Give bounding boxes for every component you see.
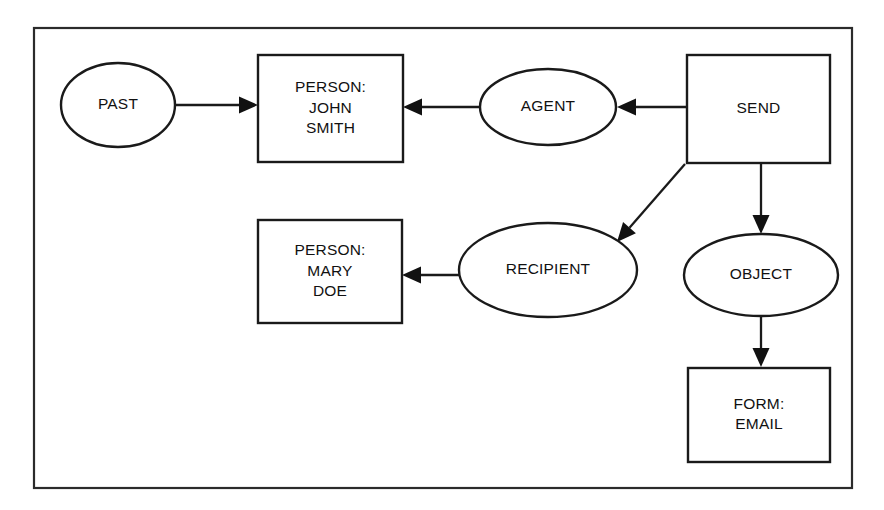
node-recipient[interactable]: RECIPIENT <box>459 223 637 317</box>
node-person-mary-doe[interactable]: PERSON:MARYDOE <box>258 220 402 323</box>
node-form-email[interactable]: FORM:EMAIL <box>688 368 830 462</box>
node-label: PERSON: <box>294 241 365 258</box>
node-label: PAST <box>98 95 138 112</box>
semantic-network-diagram: PASTPERSON:JOHNSMITHAGENTSENDPERSON:MARY… <box>0 0 884 510</box>
node-label: JOHN <box>309 99 352 116</box>
node-label: PERSON: <box>295 78 366 95</box>
node-label: FORM: <box>734 395 785 412</box>
diagram-root: PASTPERSON:JOHNSMITHAGENTSENDPERSON:MARY… <box>0 0 884 510</box>
node-object[interactable]: OBJECT <box>684 234 838 316</box>
node-label: SMITH <box>306 119 355 136</box>
node-label: SEND <box>737 99 781 116</box>
node-agent[interactable]: AGENT <box>480 69 616 145</box>
node-label: RECIPIENT <box>506 260 591 277</box>
node-person-john-smith[interactable]: PERSON:JOHNSMITH <box>258 55 403 162</box>
node-label: AGENT <box>521 97 576 114</box>
node-label: OBJECT <box>730 265 793 282</box>
node-past[interactable]: PAST <box>61 63 175 147</box>
node-label: MARY <box>307 262 352 279</box>
node-send[interactable]: SEND <box>687 55 830 163</box>
node-label: EMAIL <box>735 415 783 432</box>
node-label: DOE <box>313 282 347 299</box>
